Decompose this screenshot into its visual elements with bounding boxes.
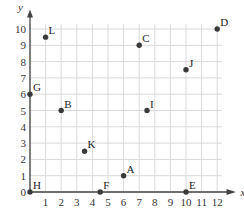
- data-points: ABCDEFGHIJKL: [27, 16, 228, 195]
- svg-text:J: J: [189, 57, 194, 69]
- svg-text:H: H: [33, 179, 41, 191]
- svg-text:3: 3: [21, 137, 27, 149]
- svg-text:8: 8: [21, 56, 27, 68]
- svg-text:12: 12: [212, 196, 223, 208]
- svg-text:B: B: [64, 98, 71, 110]
- svg-text:5: 5: [21, 105, 27, 117]
- svg-text:F: F: [103, 179, 109, 191]
- svg-text:10: 10: [15, 23, 27, 35]
- point-J: J: [183, 57, 194, 73]
- svg-text:D: D: [220, 16, 228, 28]
- svg-text:0: 0: [21, 186, 27, 198]
- svg-text:K: K: [88, 138, 96, 150]
- svg-text:6: 6: [121, 196, 127, 208]
- svg-text:I: I: [150, 98, 154, 110]
- svg-text:9: 9: [21, 39, 27, 51]
- svg-text:1: 1: [43, 196, 49, 208]
- svg-text:7: 7: [21, 72, 27, 84]
- svg-text:7: 7: [136, 196, 142, 208]
- point-K: K: [82, 138, 96, 154]
- svg-text:L: L: [49, 24, 56, 36]
- svg-text:9: 9: [168, 196, 174, 208]
- svg-text:C: C: [142, 32, 149, 44]
- svg-text:2: 2: [58, 196, 64, 208]
- svg-text:4: 4: [90, 196, 96, 208]
- svg-text:E: E: [189, 179, 196, 191]
- svg-text:1: 1: [21, 170, 27, 182]
- svg-text:3: 3: [74, 196, 80, 208]
- svg-text:G: G: [33, 81, 41, 93]
- svg-text:5: 5: [105, 196, 111, 208]
- point-L: L: [43, 24, 56, 40]
- svg-text:6: 6: [21, 88, 27, 100]
- svg-text:11: 11: [196, 196, 207, 208]
- svg-text:2: 2: [21, 153, 27, 165]
- x-axis-label: x: [240, 186, 244, 198]
- scatter-chart: xy 123456789101112012345678910 ABCDEFGHI…: [0, 0, 244, 217]
- svg-text:A: A: [127, 163, 135, 175]
- y-axis-label: y: [17, 1, 23, 13]
- svg-text:4: 4: [21, 121, 27, 133]
- svg-text:8: 8: [152, 196, 158, 208]
- svg-text:10: 10: [181, 196, 193, 208]
